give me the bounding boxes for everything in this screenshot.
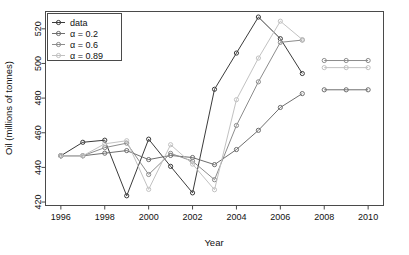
y-tick-label: 440 [33,160,43,175]
series-line [61,40,302,180]
x-tick-label: 2002 [183,212,203,222]
x-tick-label: 2008 [314,212,334,222]
legend-label: α = 0.89 [70,51,103,61]
y-tick-label: 520 [33,21,43,36]
x-axis-tick-labels: 19961998200020022004200620082010 [51,212,378,222]
y-axis-tick-labels: 420440460480500520 [33,21,43,209]
y-tick-label: 500 [33,56,43,71]
x-tick-label: 2010 [358,212,378,222]
y-tick-label: 420 [33,195,43,210]
x-tick-label: 1998 [95,212,115,222]
x-tick-label: 1996 [51,212,71,222]
legend-label: data [70,18,88,28]
line-chart: 19961998200020022004200620082010 4204404… [0,0,409,255]
x-tick-label: 2006 [270,212,290,222]
y-tick-label: 480 [33,91,43,106]
x-tick-label: 2004 [226,212,246,222]
y-axis-ticks [42,29,46,202]
x-axis-label: Year [204,237,223,248]
legend-label: α = 0.2 [70,29,98,39]
y-axis-label: Oil (millions of tonnes) [3,61,14,155]
chart-container: 19961998200020022004200620082010 4204404… [0,0,409,255]
chart-legend: dataα = 0.2α = 0.6α = 0.89 [48,14,122,61]
x-tick-label: 2000 [139,212,159,222]
y-tick-label: 460 [33,125,43,140]
legend-label: α = 0.6 [70,40,98,50]
x-axis-ticks [61,206,368,210]
series--0.2 [59,88,370,167]
